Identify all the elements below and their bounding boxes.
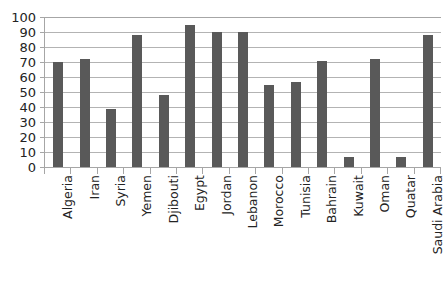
x-tickmark	[176, 167, 177, 174]
y-tick-label: 50	[0, 86, 36, 99]
y-tickmark-10	[40, 152, 45, 153]
bar	[423, 35, 433, 167]
x-axis-label-text: Saudi Arabia	[432, 175, 443, 254]
y-tickmark-50	[40, 92, 45, 93]
x-tickmark	[282, 167, 283, 174]
y-tick-label: 0	[0, 161, 36, 174]
y-tick-label: 90	[0, 26, 36, 39]
bar	[264, 85, 274, 168]
y-tickmark-70	[40, 62, 45, 63]
x-axis-label-text: Iran	[89, 175, 102, 199]
x-tickmark	[334, 167, 335, 174]
bar-chart: 1009080706050403020100 AlgeriaIranSyriaY…	[0, 0, 443, 281]
bar	[185, 25, 195, 168]
x-tickmark	[44, 167, 45, 174]
bar	[396, 157, 406, 168]
x-axis-label-iran: Iran	[89, 175, 102, 199]
x-tickmark	[97, 167, 98, 174]
y-tick-label: 10	[0, 146, 36, 159]
x-axis-label-text: Tunisia	[300, 175, 313, 218]
x-tickmark	[229, 167, 230, 174]
x-tickmark	[440, 167, 441, 174]
y-tickmark-90	[40, 32, 45, 33]
x-tickmark	[150, 167, 151, 174]
x-axis-label-yemen: Yemen	[141, 175, 154, 216]
x-tickmark	[361, 167, 362, 174]
x-axis-label-egypt: Egypt	[194, 175, 207, 211]
x-axis-label-text: Jordan	[221, 175, 234, 215]
x-axis-label-oman: Oman	[379, 175, 392, 213]
bar	[159, 95, 169, 167]
x-axis-label-saudi-arabia: Saudi Arabia	[432, 175, 443, 254]
x-axis-label-bahrain: Bahrain	[326, 175, 339, 223]
x-axis-label-text: Oman	[379, 175, 392, 213]
bar	[106, 109, 116, 168]
x-axis-label-kuwait: Kuwait	[353, 175, 366, 217]
x-tickmark	[70, 167, 71, 174]
x-axis-label-algeria: Algeria	[62, 175, 75, 219]
y-tick-label: 80	[0, 41, 36, 54]
bar	[80, 59, 90, 167]
bar	[238, 32, 248, 167]
x-axis-tickmarks	[44, 167, 441, 175]
bars-group	[45, 17, 441, 167]
y-tick-label: 70	[0, 56, 36, 69]
bar	[317, 61, 327, 168]
y-tick-label: 30	[0, 116, 36, 129]
y-tickmark-80	[40, 47, 45, 48]
y-tickmark-60	[40, 77, 45, 78]
y-tickmark-20	[40, 137, 45, 138]
plot-area	[44, 17, 441, 167]
x-axis-label-text: Bahrain	[326, 175, 339, 223]
x-tickmark	[414, 167, 415, 174]
x-axis-label-text: Algeria	[62, 175, 75, 219]
x-axis-category-labels: AlgeriaIranSyriaYemenDjiboutiEgyptJordan…	[44, 175, 441, 281]
x-axis-label-syria: Syria	[115, 175, 128, 207]
y-tickmark-40	[40, 107, 45, 108]
x-axis-label-text: Syria	[115, 175, 128, 207]
x-axis-label-lebanon: Lebanon	[247, 175, 260, 229]
x-tickmark	[202, 167, 203, 174]
x-tickmark	[123, 167, 124, 174]
x-tickmark	[387, 167, 388, 174]
x-axis-label-text: Lebanon	[247, 175, 260, 229]
bar	[132, 35, 142, 167]
x-tickmark	[255, 167, 256, 174]
y-tickmark-100	[40, 17, 45, 18]
y-tick-label: 40	[0, 101, 36, 114]
y-tick-label: 20	[0, 131, 36, 144]
x-axis-label-text: Quatar	[405, 175, 418, 218]
x-axis-label-text: Morocco	[273, 175, 286, 227]
bar	[212, 32, 222, 167]
bar	[370, 59, 380, 167]
bar	[291, 82, 301, 168]
x-axis-label-text: Kuwait	[353, 175, 366, 217]
bar	[53, 62, 63, 167]
y-tick-label: 100	[0, 11, 36, 24]
x-axis-label-text: Yemen	[141, 175, 154, 216]
x-axis-label-morocco: Morocco	[273, 175, 286, 227]
bar	[344, 157, 354, 168]
x-axis-label-djibouti: Djibouti	[168, 175, 181, 223]
x-axis-label-jordan: Jordan	[221, 175, 234, 215]
x-tickmark	[308, 167, 309, 174]
x-axis-label-text: Egypt	[194, 175, 207, 211]
x-axis-label-text: Djibouti	[168, 175, 181, 223]
x-axis-label-tunisia: Tunisia	[300, 175, 313, 218]
y-axis-tick-labels: 1009080706050403020100	[0, 10, 36, 170]
x-axis-label-quatar: Quatar	[405, 175, 418, 218]
y-tickmark-30	[40, 122, 45, 123]
y-tick-label: 60	[0, 71, 36, 84]
